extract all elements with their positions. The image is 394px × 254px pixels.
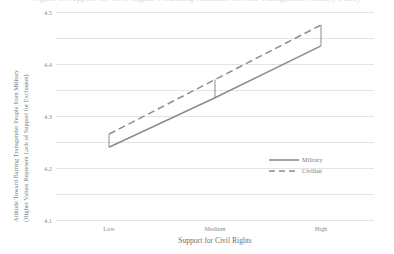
series-layer [56, 12, 374, 220]
gridline: 3.7 [56, 220, 374, 221]
y-axis-title-line-1: Attitude Toward Barring Transgender Peop… [12, 70, 19, 222]
legend-swatch-solid-icon [269, 156, 299, 164]
x-axis-tick-label: High [315, 225, 327, 232]
legend-label-military: Military [302, 156, 322, 163]
x-axis-tick-label: Medium [205, 225, 226, 232]
x-axis-title: Support for Civil Rights [56, 236, 374, 245]
plot-area: 4.54.44.34.24.143.93.83.7 LowMediumHigh … [56, 12, 374, 220]
legend-item-military[interactable]: Military [269, 154, 322, 165]
legend-swatch-dashed-icon [269, 167, 299, 175]
y-axis-title-line-2: (Higher Values Represent Lack of Support… [22, 74, 29, 222]
x-axis-tick-label: Low [103, 225, 114, 232]
legend: Military Civilian [269, 154, 322, 176]
legend-label-civilian: Civilian [302, 167, 322, 174]
legend-item-civilian[interactable]: Civilian [269, 165, 322, 176]
y-axis-tick-label: 4.5 [44, 9, 52, 16]
chart-figure: Figure 1. Support for Civil Rights Predi… [0, 0, 394, 254]
figure-title-clipped: Figure 1. Support for Civil Rights Predi… [0, 0, 394, 3]
y-axis-title: Attitude Toward Barring Transgender Peop… [0, 8, 30, 226]
y-axis-tick-label: 4.3 [44, 113, 52, 120]
y-axis-tick-label: 4.1 [44, 217, 52, 224]
y-axis-tick-label: 4.2 [44, 165, 52, 172]
y-axis-tick-label: 4.4 [44, 61, 52, 68]
